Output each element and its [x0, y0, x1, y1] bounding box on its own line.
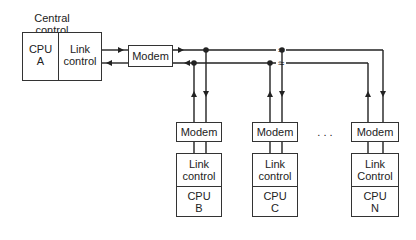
station-c-link-control: Linkcontrol	[252, 153, 298, 187]
station-c-cpu: CPUC	[252, 186, 298, 217]
cpu-a-box: CPUA	[22, 32, 59, 81]
station-b-cpu: CPUB	[176, 186, 222, 217]
central-modem-box: Modem	[128, 45, 173, 67]
station-n-cpu: CPUN	[351, 186, 399, 217]
station-b-link-control: Linkcontrol	[176, 153, 222, 187]
line-break-symbol: ≈	[278, 44, 284, 56]
cpu-a-label: CPUA	[23, 43, 58, 67]
station-b-modem: Modem	[176, 122, 222, 142]
station-n-link-control: LinkControl	[351, 153, 399, 187]
central-modem-label: Modem	[129, 50, 172, 62]
ellipsis: . . .	[310, 126, 340, 138]
station-n-modem: Modem	[351, 122, 399, 142]
line-break-symbol: ≈	[278, 57, 284, 69]
station-c-modem: Modem	[252, 122, 298, 142]
central-link-control-box: Linkcontrol	[58, 32, 102, 81]
central-link-control-label: Linkcontrol	[59, 43, 101, 67]
